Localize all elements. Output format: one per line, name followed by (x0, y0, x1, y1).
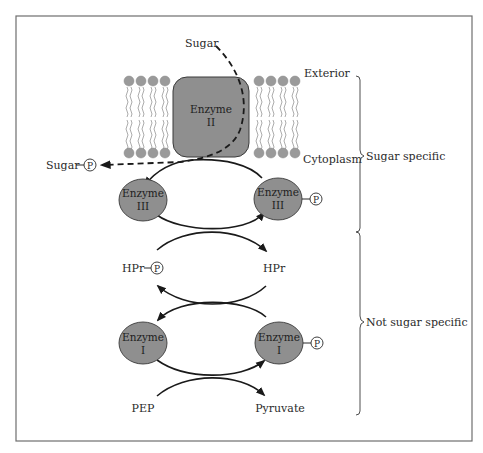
hpr-p-label: HPr (122, 262, 145, 275)
sugar-phosphate: Sugar P (46, 159, 96, 172)
pts-diagram: Enzyme II Sugar Exterior Cytoplasm Sugar… (0, 0, 483, 453)
membrane-right (254, 76, 300, 158)
arc-enzyme-i-bottom (157, 360, 264, 375)
arc-hpr-to-hpr-p (158, 286, 266, 304)
sugar-specific-label: Sugar specific (366, 150, 445, 163)
enzyme-i-right: Enzyme I P (255, 322, 323, 364)
enzyme-iii-left-label: Enzyme (122, 187, 164, 199)
arc-enzyme-i-top (158, 302, 266, 320)
enzyme-ii: Enzyme II (173, 77, 249, 157)
enzyme-i-left: Enzyme I (119, 322, 167, 364)
phosphate-symbol: P (87, 161, 93, 171)
enzyme-iii-right-label: Enzyme (257, 186, 299, 198)
enzyme-i-left-number: I (141, 344, 145, 356)
enzyme-iii-right-number: III (272, 199, 284, 211)
phosphate-symbol: P (314, 339, 320, 349)
arc-enzyme-iii-bottom (157, 213, 264, 229)
enzyme-ii-number: II (207, 116, 215, 128)
membrane-left (124, 76, 170, 158)
phosphate-symbol: P (313, 195, 319, 205)
hpr-label: HPr (263, 262, 286, 275)
enzyme-i-left-label: Enzyme (122, 331, 164, 343)
enzyme-i-right-number: I (277, 344, 281, 356)
cytoplasm-label: Cytoplasm (303, 153, 362, 166)
not-sugar-specific-label: Not sugar specific (366, 316, 468, 329)
sugar-in-label: Sugar (185, 37, 219, 50)
pep-label: PEP (132, 402, 155, 415)
sugar-phosphate-label: Sugar (46, 159, 80, 172)
arc-enzyme-iii-p-to-ii (192, 160, 262, 178)
enzyme-iii-right: Enzyme III P (254, 178, 322, 220)
enzyme-i-right-label: Enzyme (258, 331, 300, 343)
bracket-not-sugar-specific (356, 232, 364, 415)
exterior-label: Exterior (304, 67, 351, 80)
phosphate-symbol: P (154, 264, 160, 274)
enzyme-iii-left: Enzyme III (119, 179, 167, 221)
arc-hpr-p-to-hpr (157, 232, 266, 251)
hpr-phosphate: HPr P (122, 262, 163, 275)
enzyme-ii-label: Enzyme (190, 103, 232, 115)
arc-pep-to-pyruvate (157, 378, 264, 396)
pyruvate-label: Pyruvate (255, 402, 305, 415)
enzyme-iii-left-number: III (137, 200, 149, 212)
